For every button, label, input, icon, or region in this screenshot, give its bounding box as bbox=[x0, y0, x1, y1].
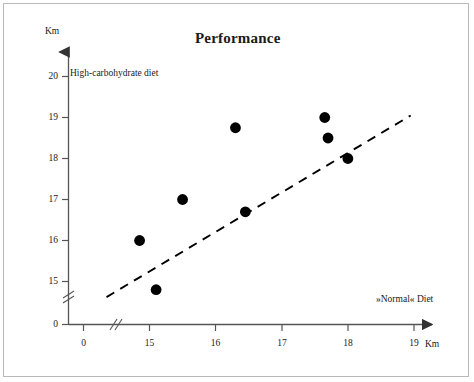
y-tick-label-17: 17 bbox=[38, 195, 58, 205]
y-tick-label-18: 18 bbox=[38, 154, 58, 164]
y-tick-label-0: 0 bbox=[38, 320, 58, 330]
data-point bbox=[151, 284, 162, 295]
trend-line bbox=[107, 115, 411, 297]
y-tick-label-15: 15 bbox=[38, 277, 58, 287]
y-axis-ticks bbox=[62, 77, 69, 325]
data-point-markers bbox=[134, 112, 353, 295]
data-point bbox=[323, 133, 334, 144]
data-point bbox=[177, 194, 188, 205]
x-tick-label-15: 15 bbox=[140, 339, 160, 349]
x-tick-label-16: 16 bbox=[206, 339, 226, 349]
figure-page: Performance High-carbohydrate diet »Norm… bbox=[0, 0, 474, 382]
data-point bbox=[134, 235, 145, 246]
scatter-chart-figure: Performance High-carbohydrate diet »Norm… bbox=[0, 0, 474, 382]
data-point bbox=[342, 153, 353, 164]
x-tick-label-19: 19 bbox=[404, 339, 424, 349]
chart-canvas bbox=[0, 0, 474, 382]
x-axis-ticks bbox=[84, 325, 415, 332]
data-point bbox=[240, 206, 251, 217]
x-axis-label-normal-diet: »Normal« Diet bbox=[376, 295, 433, 305]
series-label-high-carbohydrate-diet: High-carbohydrate diet bbox=[70, 69, 158, 79]
x-axis-unit-label: Km bbox=[425, 340, 439, 350]
x-tick-label-0: 0 bbox=[74, 339, 94, 349]
x-tick-label-18: 18 bbox=[338, 339, 358, 349]
data-point bbox=[319, 112, 330, 123]
y-tick-label-20: 20 bbox=[38, 72, 58, 82]
data-point bbox=[230, 122, 241, 133]
chart-title: Performance bbox=[195, 31, 280, 46]
y-axis-unit-label: Km bbox=[45, 27, 59, 37]
y-tick-label-16: 16 bbox=[38, 236, 58, 246]
y-tick-label-19: 19 bbox=[38, 113, 58, 123]
x-tick-label-17: 17 bbox=[272, 339, 292, 349]
